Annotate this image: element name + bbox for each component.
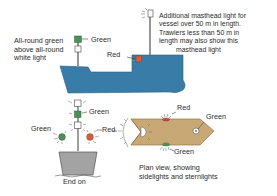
green-all-round-light-icon: [75, 36, 82, 43]
plan-green-sidelight-icon: [163, 143, 170, 146]
end-on-hull: [59, 152, 97, 175]
plan-red-label: Red: [177, 104, 190, 113]
end-on-caption: End on: [63, 178, 86, 187]
end-on-green-mast-label: Green: [89, 108, 109, 117]
ship-hull: [60, 55, 185, 93]
white-all-round-light-icon: [75, 46, 81, 52]
side-red-label: Red: [107, 51, 120, 60]
end-on-red-sidelight-icon: [87, 134, 94, 141]
plan-green-bottom-label: Green: [174, 148, 194, 157]
end-on-white-light-icon: [75, 122, 82, 129]
all-round-light-label: All-round green above all-round white li…: [14, 37, 64, 63]
plan-caption: Plan view, showing sidelights and sternl…: [139, 164, 218, 181]
red-sidelight-icon: [136, 56, 142, 62]
side-green-label: Green: [91, 36, 111, 45]
masthead-note: Additional masthead light for vessel ove…: [159, 12, 246, 54]
masthead-light-icon: [148, 10, 153, 17]
end-on-red-side-label: Red: [102, 126, 115, 135]
end-on-masthead-light-icon: [75, 100, 82, 107]
end-on-green-side-label: Green: [31, 125, 51, 134]
end-on-green-sidelight-icon: [59, 134, 66, 141]
plan-green-bow-label: Green: [206, 113, 226, 122]
end-on-green-light-icon: [75, 111, 82, 118]
plan-red-sidelight-icon: [163, 118, 170, 121]
plan-view: [112, 112, 214, 151]
